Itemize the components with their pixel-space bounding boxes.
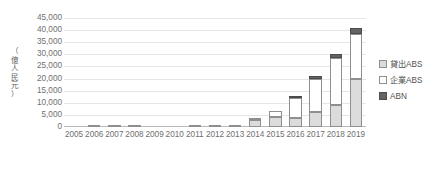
- x-axis-tick-label: 2006: [84, 130, 104, 139]
- bar-group[interactable]: [350, 28, 362, 127]
- bar-segment[interactable]: [249, 120, 261, 127]
- bar-group[interactable]: [330, 54, 342, 127]
- x-axis-tick-label: 2015: [265, 130, 285, 139]
- x-axis-tick-label: 2012: [205, 130, 225, 139]
- bar-segment[interactable]: [108, 125, 120, 127]
- bar-segment[interactable]: [229, 125, 241, 127]
- y-axis-tick-label: 15,000: [37, 87, 62, 95]
- y-axis-tick-label: 40,000: [37, 26, 62, 34]
- bar-group[interactable]: [108, 125, 120, 127]
- legend-item[interactable]: ABN: [379, 88, 445, 104]
- bar-group[interactable]: [309, 76, 321, 127]
- bar-group[interactable]: [128, 125, 140, 127]
- bar-segment[interactable]: [330, 105, 342, 127]
- plot-area: [64, 18, 366, 127]
- legend-item[interactable]: 企業ABS: [379, 72, 445, 88]
- x-axis-tick-label: 2009: [145, 130, 165, 139]
- bar-segment[interactable]: [350, 34, 362, 79]
- legend-swatch-icon: [379, 60, 387, 68]
- chart-legend: 貸出ABS企業ABSABN: [379, 56, 445, 104]
- x-axis-tick-label: 2014: [245, 130, 265, 139]
- x-axis-tick-label: 2005: [64, 130, 84, 139]
- bar-group[interactable]: [88, 125, 100, 127]
- legend-swatch-icon: [379, 92, 387, 100]
- bar-segment[interactable]: [269, 117, 281, 127]
- bar-segment[interactable]: [209, 125, 221, 127]
- bar-segment[interactable]: [330, 58, 342, 105]
- bar-segment[interactable]: [269, 111, 281, 118]
- x-axis-tick-label: 2019: [346, 130, 366, 139]
- bar-group[interactable]: [189, 125, 201, 127]
- bar-segment[interactable]: [189, 125, 201, 127]
- x-axis-tick-label: 2017: [306, 130, 326, 139]
- x-axis-tick-label: 2013: [225, 130, 245, 139]
- x-axis-tick-label: 2016: [285, 130, 305, 139]
- legend-item-label: 企業ABS: [390, 76, 422, 85]
- bar-segment[interactable]: [88, 125, 100, 127]
- x-axis-tick-label: 2007: [104, 130, 124, 139]
- legend-item-label: 貸出ABS: [390, 60, 422, 69]
- x-axis-tick-label: 2010: [165, 130, 185, 139]
- legend-item-label: ABN: [390, 92, 407, 101]
- x-axis-tick-label: 2008: [124, 130, 144, 139]
- x-axis-tick-label: 2011: [185, 130, 205, 139]
- bar-segment[interactable]: [350, 79, 362, 127]
- x-axis-tick-labels: 2005200620072008200920102011201220132014…: [64, 130, 366, 144]
- x-axis-tick-label: 2018: [326, 130, 346, 139]
- bar-group[interactable]: [249, 118, 261, 127]
- y-axis-tick-label: 35,000: [37, 38, 62, 46]
- bar-segment[interactable]: [128, 125, 140, 127]
- y-axis-title-char: ）: [7, 91, 21, 100]
- legend-item[interactable]: 貸出ABS: [379, 56, 445, 72]
- bar-group[interactable]: [229, 125, 241, 127]
- bar-series-container: [64, 18, 366, 127]
- bar-group[interactable]: [289, 96, 301, 127]
- y-axis-tick-label: 0: [57, 123, 62, 131]
- y-axis-tick-label: 25,000: [37, 62, 62, 70]
- bar-segment[interactable]: [309, 112, 321, 127]
- y-axis-tick-label: 30,000: [37, 50, 62, 58]
- y-axis-tick-label: 20,000: [37, 75, 62, 83]
- bar-segment[interactable]: [309, 79, 321, 113]
- bar-segment[interactable]: [289, 118, 301, 127]
- bar-group[interactable]: [209, 125, 221, 127]
- y-axis-tick-label: 10,000: [37, 99, 62, 107]
- legend-swatch-icon: [379, 76, 387, 84]
- y-axis-tick-label: 5,000: [42, 111, 63, 119]
- y-axis-tick-labels: 45,00040,00035,00030,00025,00020,00015,0…: [22, 14, 62, 130]
- bar-segment[interactable]: [289, 98, 301, 118]
- y-axis-title: （億人民元）: [7, 48, 21, 100]
- bar-group[interactable]: [269, 111, 281, 127]
- stacked-bar-chart: （億人民元） 45,00040,00035,00030,00025,00020,…: [0, 0, 448, 178]
- y-axis-tick-label: 45,000: [37, 14, 62, 22]
